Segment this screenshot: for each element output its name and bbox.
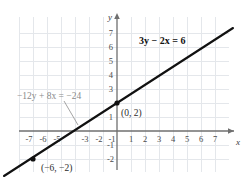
point-label-lower: (−6, −2) — [41, 163, 72, 174]
x-tick-3: 3 — [157, 134, 161, 144]
y-tick-1: 1 — [109, 112, 113, 122]
x-tick-4: 4 — [171, 134, 176, 144]
y-tick--2: -2 — [107, 154, 114, 164]
y-tick--1: -1 — [107, 140, 114, 150]
annotation-leader-line — [64, 101, 78, 125]
point-label-y-intercept: (0, 2) — [121, 108, 142, 119]
x-tick-5: 5 — [185, 134, 189, 144]
graph-canvas: -7 -6 -5 -3 -2 -1 1 2 3 4 5 6 7 1 3 4 5 … — [0, 0, 252, 179]
y-tick-3: 3 — [109, 84, 113, 94]
x-axis-negative-tick-labels: -7 -6 -5 -3 -2 -1 — [25, 134, 115, 144]
x-tick-2: 2 — [143, 134, 147, 144]
x-tick-6: 6 — [199, 134, 203, 144]
y-axis-negative-tick-labels: -1 -2 — [107, 140, 114, 164]
line-graph-figure: -7 -6 -5 -3 -2 -1 1 2 3 4 5 6 7 1 3 4 5 … — [0, 0, 252, 179]
x-tick--7: -7 — [25, 134, 32, 144]
y-axis-arrow — [114, 13, 120, 19]
point-marker--6--2 — [30, 156, 35, 161]
x-tick-1: 1 — [129, 134, 133, 144]
y-tick-7: 7 — [109, 28, 113, 38]
y-axis-label: y — [107, 12, 112, 22]
y-tick-5: 5 — [109, 56, 113, 66]
equation-label-gray: −12y + 8x = −24 — [17, 91, 81, 101]
x-tick-7: 7 — [213, 134, 217, 144]
equation-label-bold: 3y − 2x = 6 — [139, 35, 185, 46]
point-marker-0-2 — [114, 100, 119, 105]
x-tick--2: -2 — [95, 134, 102, 144]
x-axis-positive-tick-labels: 1 2 3 4 5 6 7 — [129, 134, 217, 144]
x-axis-arrow — [228, 128, 234, 134]
x-tick--6: -6 — [39, 134, 46, 144]
y-tick-6: 6 — [109, 42, 113, 52]
x-axis-label: x — [235, 137, 240, 147]
x-tick--3: -3 — [81, 134, 88, 144]
